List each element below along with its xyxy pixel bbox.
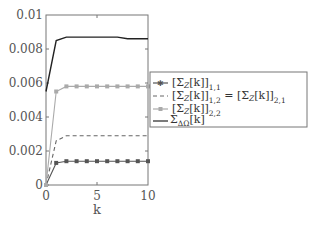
data-marker	[64, 159, 68, 163]
data-marker	[54, 161, 58, 165]
data-marker	[126, 84, 130, 88]
chart: 0 0.002 0.004 0.006 0.008 0.01 0 5 10 k …	[0, 0, 312, 225]
data-marker	[64, 84, 68, 88]
series-line-4	[46, 37, 148, 91]
data-marker	[146, 159, 150, 163]
data-marker	[136, 159, 140, 163]
data-marker	[136, 84, 140, 88]
data-marker	[75, 159, 79, 163]
y-tick-2: 0.004	[9, 110, 44, 124]
data-marker	[44, 183, 48, 187]
y-tick-4: 0.008	[9, 42, 43, 56]
svg-text:✱: ✱	[157, 79, 164, 88]
y-tick-5: 0.01	[16, 8, 43, 22]
x-tick-2: 10	[140, 189, 155, 203]
data-marker	[54, 90, 58, 94]
data-marker	[85, 84, 89, 88]
series-layer	[44, 37, 150, 187]
data-marker	[75, 84, 79, 88]
data-marker	[95, 159, 99, 163]
data-marker	[126, 159, 130, 163]
data-marker	[85, 159, 89, 163]
y-tick-3: 0.006	[9, 76, 43, 90]
x-axis-label: k	[93, 202, 101, 217]
x-tick-1: 5	[93, 189, 101, 203]
data-marker	[105, 159, 109, 163]
x-tick-0: 0	[42, 189, 50, 203]
series-line-1	[46, 161, 148, 185]
data-marker	[146, 84, 150, 88]
data-marker	[115, 84, 119, 88]
data-marker	[95, 84, 99, 88]
y-tick-1: 0.002	[9, 144, 43, 158]
data-marker	[105, 84, 109, 88]
data-marker	[115, 159, 119, 163]
